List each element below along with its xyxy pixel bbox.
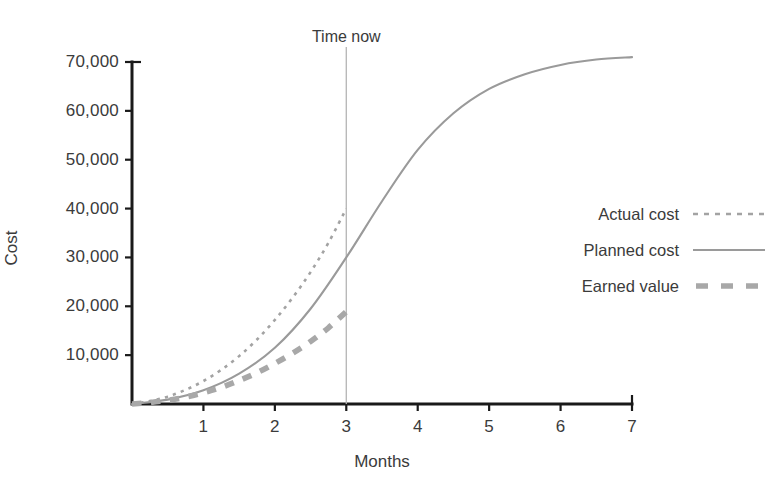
solid-line-icon	[692, 243, 766, 257]
y-axis-title: Cost	[2, 231, 22, 266]
legend-label-earned-value: Earned value	[582, 277, 679, 296]
series-earned-value	[132, 312, 346, 404]
dashed-line-icon	[692, 279, 766, 293]
x-tick-label: 6	[556, 417, 566, 437]
y-tick-label: 60,000	[66, 101, 119, 121]
dotted-line-icon	[692, 207, 766, 221]
y-tick-label: 40,000	[66, 199, 119, 219]
legend-item-actual-cost: Actual cost	[556, 196, 766, 232]
legend-item-earned-value: Earned value	[556, 268, 766, 304]
y-tick-label: 70,000	[66, 52, 119, 72]
y-tick-label: 30,000	[66, 247, 119, 267]
x-tick-label: 3	[341, 417, 351, 437]
x-tick-label: 2	[270, 417, 280, 437]
legend-label-planned-cost: Planned cost	[584, 241, 679, 260]
time-now-label: Time now	[312, 28, 381, 46]
y-tick-label: 10,000	[66, 345, 119, 365]
legend-label-actual-cost: Actual cost	[598, 205, 679, 224]
x-tick-label: 7	[627, 417, 637, 437]
x-tick-label: 4	[413, 417, 423, 437]
legend-item-planned-cost: Planned cost	[556, 232, 766, 268]
y-tick-label: 20,000	[66, 296, 119, 316]
x-tick-label: 1	[199, 417, 209, 437]
y-tick-label: 50,000	[66, 150, 119, 170]
earned-value-chart: 10,00020,00030,00040,00050,00060,00070,0…	[0, 0, 779, 497]
x-axis-title: Months	[354, 452, 410, 472]
chart-legend: Actual cost Planned cost Earned value	[556, 196, 766, 304]
x-tick-label: 5	[484, 417, 494, 437]
